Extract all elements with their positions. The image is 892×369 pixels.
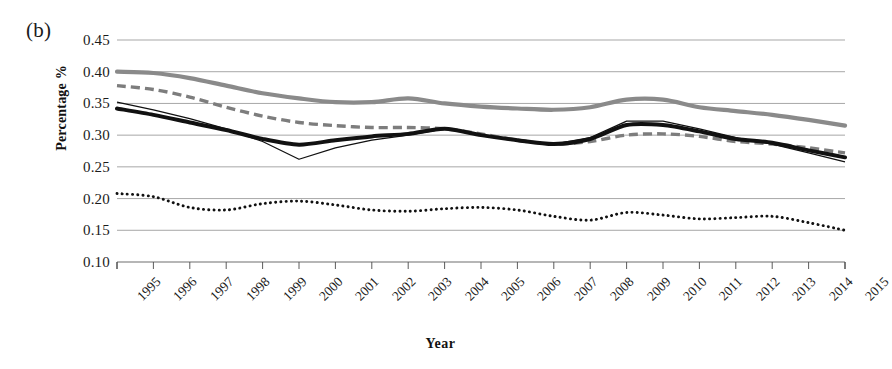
x-axis-title: Year bbox=[0, 336, 881, 352]
x-tick-label: 2014 bbox=[826, 274, 856, 304]
x-tick-label: 2000 bbox=[316, 274, 346, 304]
x-tick-label: 2006 bbox=[534, 274, 564, 304]
x-tick-label: 2001 bbox=[352, 274, 382, 304]
x-tick-label: 1997 bbox=[207, 274, 237, 304]
x-tick-label: 2005 bbox=[498, 274, 528, 304]
x-tick-label: 1995 bbox=[134, 274, 164, 304]
x-tick-label: 2011 bbox=[716, 274, 746, 304]
x-tick-label: 1999 bbox=[280, 274, 310, 304]
x-tick-label: 2012 bbox=[753, 274, 783, 304]
x-tick-label: 1996 bbox=[170, 274, 200, 304]
x-tick-label: 2010 bbox=[680, 274, 710, 304]
x-tick-label: 2009 bbox=[644, 274, 674, 304]
x-tick-label: 2002 bbox=[389, 274, 419, 304]
x-tick-label: 2008 bbox=[607, 274, 637, 304]
x-tick-label: 2015 bbox=[862, 274, 892, 304]
x-tick-label: 2007 bbox=[571, 274, 601, 304]
x-tick-label: 1998 bbox=[243, 274, 273, 304]
x-tick-label: 2004 bbox=[462, 274, 492, 304]
x-tick-label: 2003 bbox=[425, 274, 455, 304]
x-tick-label: 2013 bbox=[789, 274, 819, 304]
